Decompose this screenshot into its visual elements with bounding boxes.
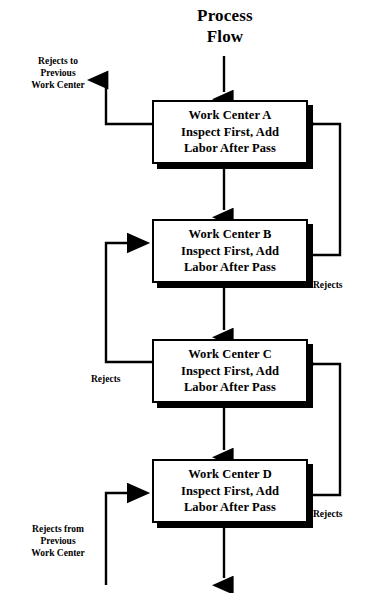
- label-rejects-to-previous-work-center: Rejects to Previous Work Center: [12, 55, 104, 91]
- label-rejects-from-previous-line-3: Work Center: [12, 547, 104, 559]
- node-work-center-a[interactable]: Work Center A Inspect First, Add Labor A…: [152, 100, 308, 164]
- label-rejects-from-previous-line-2: Previous: [12, 535, 104, 547]
- node-b-line-3: Labor After Pass: [184, 259, 276, 276]
- diagram-title: Process Flow: [155, 6, 295, 47]
- node-d-line-2: Inspect First, Add: [181, 483, 279, 500]
- node-work-center-c[interactable]: Work Center C Inspect First, Add Labor A…: [152, 339, 308, 403]
- label-rejects-c-to-b: Rejects: [91, 373, 121, 385]
- label-rejects-to-previous-line-2: Previous: [12, 67, 104, 79]
- edge-c-rejects-to-b: [106, 243, 152, 362]
- edge-a-rejects-out: [106, 80, 152, 124]
- label-rejects-to-previous-line-3: Work Center: [12, 79, 104, 91]
- node-c-line-2: Inspect First, Add: [181, 363, 279, 380]
- node-a-line-2: Inspect First, Add: [181, 124, 279, 141]
- node-b-line-1: Work Center B: [188, 226, 271, 243]
- diagram-title-line-2: Flow: [155, 27, 295, 48]
- process-flow-diagram: Process Flow Work Center A Inspect First…: [0, 0, 369, 593]
- diagram-title-line-1: Process: [155, 6, 295, 27]
- node-b-line-2: Inspect First, Add: [181, 243, 279, 260]
- label-rejects-from-previous-work-center: Rejects from Previous Work Center: [12, 523, 104, 559]
- label-rejects-b-to-a: Rejects: [313, 279, 343, 291]
- label-rejects-from-previous-line-1: Rejects from: [12, 523, 104, 535]
- edge-prev-rejects-into-d: [106, 493, 146, 585]
- node-d-line-1: Work Center D: [188, 466, 272, 483]
- node-work-center-b[interactable]: Work Center B Inspect First, Add Labor A…: [152, 219, 308, 283]
- node-c-line-3: Labor After Pass: [184, 379, 276, 396]
- node-c-line-1: Work Center C: [188, 346, 272, 363]
- node-a-line-3: Labor After Pass: [184, 140, 276, 157]
- node-a-line-1: Work Center A: [188, 107, 271, 124]
- label-rejects-d-to-c: Rejects: [313, 508, 343, 520]
- label-rejects-to-previous-line-1: Rejects to: [12, 55, 104, 67]
- node-d-line-3: Labor After Pass: [184, 499, 276, 516]
- node-work-center-d[interactable]: Work Center D Inspect First, Add Labor A…: [152, 459, 308, 523]
